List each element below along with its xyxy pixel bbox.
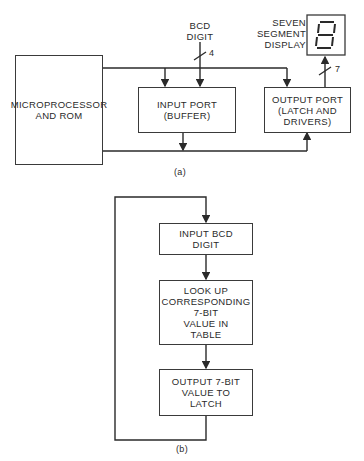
step3-line2: VALUE TO bbox=[182, 387, 230, 398]
output-port-label: OUTPUT PORT bbox=[272, 94, 343, 105]
output-port-sublabel-1: (LATCH AND bbox=[278, 105, 337, 116]
step2-line1: LOOK UP bbox=[184, 285, 228, 296]
step2-line3: 7-BIT bbox=[194, 307, 219, 318]
microprocessor-box: MICROPROCESSOR AND ROM bbox=[15, 55, 103, 165]
flow-step-lookup: LOOK UP CORRESPONDING 7-BIT VALUE IN TAB… bbox=[159, 280, 253, 345]
bcd-digit-label: BCD DIGIT bbox=[180, 20, 220, 42]
bcd-label-line1: BCD bbox=[180, 20, 220, 31]
display-bus-width: 7 bbox=[335, 64, 340, 74]
display-label-line3: DISPLAY bbox=[252, 39, 306, 50]
step2-line5: TABLE bbox=[191, 329, 222, 340]
step2-line4: VALUE IN bbox=[184, 318, 229, 329]
input-port-sublabel: (BUFFER) bbox=[164, 110, 211, 121]
microprocessor-label-2: AND ROM bbox=[36, 110, 83, 121]
output-port-box: OUTPUT PORT (LATCH AND DRIVERS) bbox=[264, 87, 351, 133]
step2-line2: CORRESPONDING bbox=[162, 296, 251, 307]
step1-line2: DIGIT bbox=[193, 239, 220, 250]
microprocessor-label: MICROPROCESSOR bbox=[11, 99, 108, 110]
step1-line1: INPUT BCD bbox=[179, 228, 233, 239]
seven-segment-label: SEVEN SEGMENT DISPLAY bbox=[252, 17, 306, 50]
flow-step-output: OUTPUT 7-BIT VALUE TO LATCH bbox=[159, 369, 253, 416]
bcd-label-line2: DIGIT bbox=[180, 31, 220, 42]
display-label-line2: SEGMENT bbox=[252, 28, 306, 39]
step3-line1: OUTPUT 7-BIT bbox=[172, 376, 240, 387]
bcd-bus-width: 4 bbox=[209, 48, 214, 58]
caption-a: (a) bbox=[170, 167, 190, 178]
output-port-sublabel-2: DRIVERS) bbox=[284, 116, 332, 127]
caption-b: (b) bbox=[172, 444, 192, 455]
flow-step-input: INPUT BCD DIGIT bbox=[159, 223, 253, 255]
display-label-line1: SEVEN bbox=[252, 17, 306, 28]
step3-line3: LATCH bbox=[190, 398, 222, 409]
input-port-label: INPUT PORT bbox=[157, 99, 217, 110]
input-port-box: INPUT PORT (BUFFER) bbox=[138, 87, 236, 133]
